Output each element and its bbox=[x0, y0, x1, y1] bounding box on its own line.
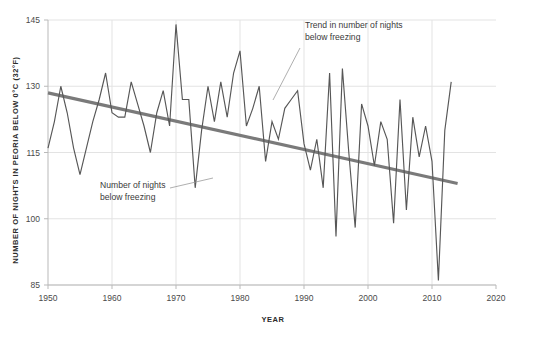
x-tick-label-1980: 1980 bbox=[231, 293, 250, 303]
trend-annotation-line-2: below freezing bbox=[305, 32, 361, 42]
y-tick-label-115: 115 bbox=[26, 148, 40, 158]
x-tick-label-2010: 2010 bbox=[423, 293, 442, 303]
series-annotation-line-1: Number of nights bbox=[100, 180, 165, 190]
y-tick-label-145: 145 bbox=[26, 15, 40, 25]
x-tick-label-1970: 1970 bbox=[167, 293, 186, 303]
chart-background bbox=[0, 0, 546, 339]
y-tick-label-130: 130 bbox=[26, 81, 40, 91]
x-axis-title: YEAR bbox=[261, 315, 284, 324]
y-tick-label-85: 85 bbox=[31, 280, 41, 290]
x-tick-label-1950: 1950 bbox=[39, 293, 58, 303]
trend-annotation-line-1: Trend in number of nights bbox=[305, 20, 403, 30]
y-tick-label-100: 100 bbox=[26, 214, 40, 224]
series-annotation-line-2: below freezing bbox=[100, 192, 156, 202]
chart-container: 85100115130145 1950196019701980199020002… bbox=[0, 0, 546, 339]
nights-below-freezing-line-chart: 85100115130145 1950196019701980199020002… bbox=[0, 0, 546, 339]
x-tick-label-1960: 1960 bbox=[103, 293, 122, 303]
y-axis-title: NUMBER OF NIGHTS IN PEORIA BELOW 0°C (32… bbox=[11, 56, 20, 263]
x-tick-label-1990: 1990 bbox=[295, 293, 314, 303]
x-tick-label-2020: 2020 bbox=[487, 293, 506, 303]
x-tick-label-2000: 2000 bbox=[359, 293, 378, 303]
